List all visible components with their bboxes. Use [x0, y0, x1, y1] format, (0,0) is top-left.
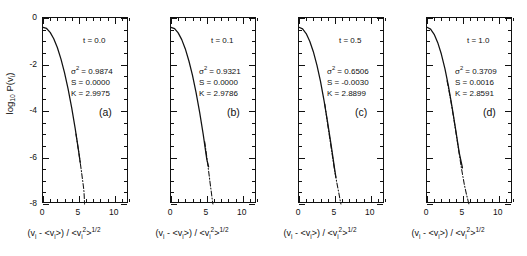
- variance-label: σ2 = 0.9874: [71, 66, 113, 77]
- x-tick-label: 5: [322, 207, 346, 217]
- panel-label-a: (a): [99, 106, 112, 118]
- x-tick-label: 0: [414, 207, 438, 217]
- x-tick: [513, 18, 514, 21]
- series-group-d: [427, 18, 513, 204]
- x-tick-label: 0: [30, 207, 54, 217]
- time-label-c: t = 0.5: [339, 36, 361, 45]
- time-label-d: t = 1.0: [467, 36, 489, 45]
- y-tick-label: -8: [15, 198, 37, 208]
- y-tick: [299, 204, 305, 205]
- panel-label-b: (b): [227, 106, 240, 118]
- plot-frame-a: t = 0.0σ2 = 0.9874S = 0.0000K = 2.9975(a…: [42, 17, 128, 203]
- gaussian-reference-curve: [76, 134, 85, 204]
- y-axis-title: log10 P(vi): [4, 19, 15, 169]
- series-group-c: [299, 18, 385, 204]
- kurtosis-label: K = 2.8591: [455, 88, 497, 99]
- skewness-label: S = 0.0000: [71, 77, 113, 88]
- skewness-label: S = -0.0030: [327, 77, 369, 88]
- skewness-label: S = 0.0000: [199, 77, 241, 88]
- x-tick-label: 10: [230, 207, 254, 217]
- y-tick: [377, 204, 383, 205]
- kurtosis-label: K = 2.8899: [327, 88, 369, 99]
- y-tick: [505, 204, 511, 205]
- x-tick-label: 10: [358, 207, 382, 217]
- x-axis-title: (vi - <vi>) / <vi2>1/2: [256, 228, 384, 238]
- data-curve: [299, 27, 336, 177]
- x-tick-label: 5: [194, 207, 218, 217]
- statistics-block-c: σ2 = 0.6506S = -0.0030K = 2.8899: [327, 66, 369, 100]
- x-tick-label: 10: [486, 207, 510, 217]
- variance-label: σ2 = 0.3709: [455, 66, 497, 77]
- x-tick-label: 0: [286, 207, 310, 217]
- panel-d: t = 1.0σ2 = 0.3709S = 0.0016K = 2.8591(d…: [384, 0, 512, 256]
- x-tick-label: 5: [66, 207, 90, 217]
- panel-label-c: (c): [355, 106, 367, 118]
- x-tick-label: 0: [158, 207, 182, 217]
- plot-frame-d: t = 1.0σ2 = 0.3709S = 0.0016K = 2.8591(d…: [426, 17, 512, 203]
- variance-label: σ2 = 0.9321: [199, 66, 241, 77]
- kurtosis-label: K = 2.9786: [199, 88, 241, 99]
- x-axis-title: (vi - <vi>) / <vi2>1/2: [384, 228, 512, 238]
- plot-frame-c: t = 0.5σ2 = 0.6506S = -0.0030K = 2.8899(…: [298, 17, 384, 203]
- panel-label-d: (d): [483, 106, 496, 118]
- panel-b: t = 0.1σ2 = 0.9321S = 0.0000K = 2.9786(b…: [128, 0, 256, 256]
- y-tick: [249, 204, 255, 205]
- y-tick: [43, 204, 49, 205]
- x-tick-label: 5: [450, 207, 474, 217]
- y-tick-label: -2: [15, 59, 37, 69]
- statistics-block-b: σ2 = 0.9321S = 0.0000K = 2.9786: [199, 66, 241, 100]
- plot-frame-b: t = 0.1σ2 = 0.9321S = 0.0000K = 2.9786(b…: [170, 17, 256, 203]
- kurtosis-label: K = 2.9975: [71, 88, 113, 99]
- panel-c: t = 0.5σ2 = 0.6506S = -0.0030K = 2.8899(…: [256, 0, 384, 256]
- statistics-block-a: σ2 = 0.9874S = 0.0000K = 2.9975: [71, 66, 113, 100]
- series-group-a: [43, 18, 129, 204]
- x-axis-title: (vi - <vi>) / <vi2>1/2: [128, 228, 256, 238]
- time-label-b: t = 0.1: [211, 36, 233, 45]
- x-tick-label: 10: [102, 207, 126, 217]
- panel-a: t = 0.0σ2 = 0.9874S = 0.0000K = 2.9975(a…: [0, 0, 128, 256]
- y-tick-label: -4: [15, 105, 37, 115]
- skewness-label: S = 0.0016: [455, 77, 497, 88]
- statistics-block-d: σ2 = 0.3709S = 0.0016K = 2.8591: [455, 66, 497, 100]
- variance-label: σ2 = 0.6506: [327, 66, 369, 77]
- y-tick: [171, 204, 177, 205]
- figure-panel-grid: t = 0.0σ2 = 0.9874S = 0.0000K = 2.9975(a…: [0, 0, 527, 256]
- y-tick-label: -6: [15, 152, 37, 162]
- y-tick-label: 0: [15, 12, 37, 22]
- x-axis-title: (vi - <vi>) / <vi2>1/2: [0, 228, 128, 238]
- series-group-b: [171, 18, 257, 204]
- y-tick: [121, 204, 127, 205]
- time-label-a: t = 0.0: [83, 36, 105, 45]
- y-tick: [427, 204, 433, 205]
- x-tick: [513, 199, 514, 202]
